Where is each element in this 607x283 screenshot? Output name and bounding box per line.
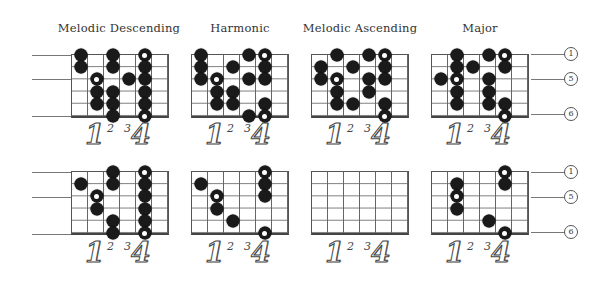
note-dot <box>450 178 463 191</box>
finger-4: 4 <box>131 236 150 269</box>
root-note-dot <box>90 73 103 86</box>
note-dot <box>258 61 271 74</box>
finger-1: 1 <box>85 118 104 151</box>
note-dot <box>362 73 375 86</box>
note-dot <box>194 49 207 62</box>
string-extension-left <box>32 116 72 117</box>
root-note-dot <box>138 110 151 123</box>
note-dot <box>378 97 391 110</box>
fretboard-grid <box>431 54 529 118</box>
string-extension-left <box>32 79 72 80</box>
root-note-dot <box>138 227 151 240</box>
string-extension-right <box>531 114 565 115</box>
note-dot <box>482 214 495 227</box>
root-note-dot <box>498 49 511 62</box>
note-dot <box>210 202 223 215</box>
note-dot <box>106 166 119 179</box>
note-dot <box>482 49 495 62</box>
note-dot <box>434 73 447 86</box>
note-dot <box>106 85 119 98</box>
string-extension-left <box>32 197 72 198</box>
finger-4: 4 <box>251 118 270 151</box>
note-dot <box>258 97 271 110</box>
note-dot <box>450 61 463 74</box>
fretboard-grid <box>311 171 409 235</box>
note-dot <box>74 178 87 191</box>
string-extension-right <box>531 54 565 55</box>
note-dot <box>106 97 119 110</box>
note-dot <box>466 61 479 74</box>
finger-2: 2 <box>227 122 234 135</box>
note-dot <box>226 85 239 98</box>
finger-4: 4 <box>371 236 390 269</box>
finger-1: 1 <box>445 118 464 151</box>
finger-4: 4 <box>131 118 150 151</box>
finger-4: 4 <box>251 236 270 269</box>
note-dot <box>450 202 463 215</box>
finger-2: 2 <box>347 240 354 253</box>
string-extension-left <box>32 55 72 56</box>
note-dot <box>106 49 119 62</box>
finger-numbers: 1 2 3 4 <box>431 122 527 150</box>
note-dot <box>106 110 119 123</box>
note-dot <box>106 61 119 74</box>
title-major: Major <box>462 21 498 35</box>
root-note-dot <box>138 49 151 62</box>
note-dot <box>482 97 495 110</box>
note-dot <box>138 61 151 74</box>
note-dot <box>226 214 239 227</box>
note-dot <box>138 178 151 191</box>
finger-1: 1 <box>445 236 464 269</box>
finger-3: 3 <box>484 122 491 135</box>
note-dot <box>122 73 135 86</box>
note-dot <box>90 97 103 110</box>
note-dot <box>138 202 151 215</box>
string-label-fifth: 5 <box>564 190 578 204</box>
finger-numbers: 1 2 3 4 <box>71 122 167 150</box>
note-dot <box>450 49 463 62</box>
note-dot <box>138 85 151 98</box>
root-note-dot <box>258 227 271 240</box>
root-note-dot <box>498 110 511 123</box>
note-dot <box>106 227 119 240</box>
finger-3: 3 <box>124 240 131 253</box>
note-dot <box>498 61 511 74</box>
fretboard-grid <box>431 171 529 235</box>
finger-numbers: 1 2 3 4 <box>71 240 167 268</box>
finger-2: 2 <box>107 122 114 135</box>
finger-2: 2 <box>227 240 234 253</box>
note-dot <box>258 190 271 203</box>
string-extension-right <box>531 232 565 233</box>
finger-numbers: 1 2 3 4 <box>311 240 407 268</box>
note-dot <box>378 73 391 86</box>
note-dot <box>138 97 151 110</box>
note-dot <box>226 61 239 74</box>
note-dot <box>106 178 119 191</box>
root-note-dot <box>138 166 151 179</box>
root-note-dot <box>378 110 391 123</box>
note-dot <box>90 202 103 215</box>
note-dot <box>138 73 151 86</box>
string-label-root: 1 <box>564 165 578 179</box>
title-melodic-ascending: Melodic Ascending <box>303 21 417 35</box>
root-note-dot <box>258 110 271 123</box>
note-dot <box>362 85 375 98</box>
note-dot <box>362 49 375 62</box>
note-dot <box>242 49 255 62</box>
finger-1: 1 <box>205 236 224 269</box>
note-dot <box>74 49 87 62</box>
root-note-dot <box>210 190 223 203</box>
note-dot <box>450 97 463 110</box>
note-dot <box>498 97 511 110</box>
root-note-dot <box>258 49 271 62</box>
finger-numbers: 1 2 3 4 <box>191 122 287 150</box>
root-note-dot <box>498 227 511 240</box>
finger-2: 2 <box>347 122 354 135</box>
note-dot <box>138 214 151 227</box>
string-extension-right <box>531 197 565 198</box>
string-label-sixth: 6 <box>564 225 578 239</box>
finger-3: 3 <box>364 122 371 135</box>
note-dot <box>194 73 207 86</box>
note-dot <box>330 85 343 98</box>
root-note-dot <box>450 73 463 86</box>
